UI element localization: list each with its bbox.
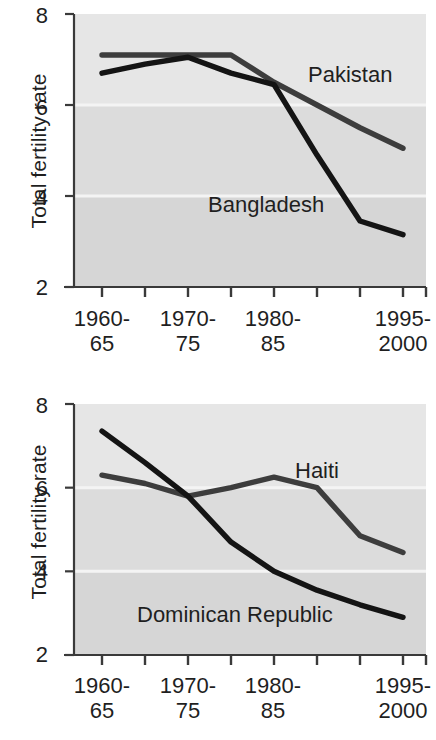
x-tick-line2: 2000: [358, 331, 436, 356]
x-tick-line1: 1995-: [358, 306, 436, 331]
x-tick-line1: 1995-: [358, 673, 436, 698]
x-tick-label-3: 1995- 2000: [358, 673, 436, 723]
series-label-pakistan: Pakistan: [308, 62, 392, 88]
x-tick-line2: 65: [57, 331, 147, 356]
x-tick-line1: 1960-: [57, 673, 147, 698]
plot-band-upper: [74, 14, 426, 105]
plot-band-middle: [74, 105, 426, 196]
series-label-haiti: Haiti: [295, 458, 339, 484]
x-tick-line2: 2000: [358, 698, 436, 723]
x-tick-line2: 65: [57, 698, 147, 723]
x-tick-line2: 75: [143, 698, 233, 723]
series-label-dominican-republic: Dominican Republic: [137, 602, 333, 628]
x-tick-label-2: 1980- 85: [228, 673, 318, 723]
series-label-bangladesh: Bangladesh: [208, 192, 324, 218]
plot-area: [0, 0, 436, 300]
plot-band-upper: [74, 404, 426, 488]
x-tick-line1: 1960-: [57, 306, 147, 331]
x-tick-line2: 85: [228, 331, 318, 356]
x-tick-line2: 85: [228, 698, 318, 723]
x-tick-label-2: 1980- 85: [228, 306, 318, 356]
x-tick-line1: 1980-: [228, 306, 318, 331]
x-tick-label-0: 1960- 65: [57, 673, 147, 723]
x-tick-label-1: 1970- 75: [143, 306, 233, 356]
x-tick-line1: 1970-: [143, 306, 233, 331]
x-tick-line1: 1980-: [228, 673, 318, 698]
x-tick-label-0: 1960- 65: [57, 306, 147, 356]
plot-band-middle: [74, 488, 426, 572]
x-tick-label-1: 1970- 75: [143, 673, 233, 723]
fertility-rate-figure: Total fertility rate 8 6 4 2 1960- 65 19…: [0, 0, 436, 740]
x-tick-line1: 1970-: [143, 673, 233, 698]
x-tick-label-3: 1995- 2000: [358, 306, 436, 356]
chart-pakistan-bangladesh: Total fertility rate 8 6 4 2 1960- 65 19…: [0, 0, 436, 370]
x-tick-line2: 75: [143, 331, 233, 356]
chart-haiti-dominican-republic: Total fertility rate 8 6 4 2 1960- 65 19…: [0, 370, 436, 740]
